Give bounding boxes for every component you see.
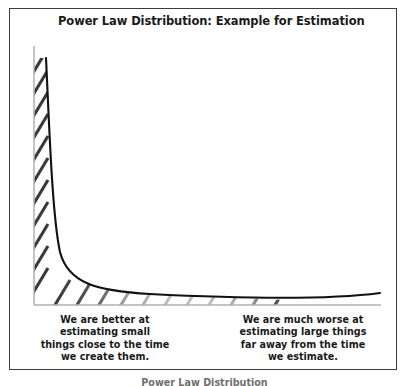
figure-canvas: Power Law Distribution: Example for Esti… — [0, 0, 409, 386]
caption-line: we create them. — [22, 351, 188, 363]
caption-line: We are much worse at — [216, 314, 390, 326]
caption-line: estimating large things — [216, 326, 390, 338]
caption-line: things close to the time — [22, 339, 188, 351]
power-law-curve — [46, 58, 380, 298]
caption-line: estimating small — [22, 326, 188, 338]
caption-line: we estimate. — [216, 351, 390, 363]
caption-line: We are better at — [22, 314, 188, 326]
caption-line: far away from the time — [216, 339, 390, 351]
hatched-area — [18, 40, 390, 330]
small-things-caption: We are better at estimating small things… — [22, 314, 188, 363]
figure-bottom-caption: Power Law Distribution — [0, 377, 409, 386]
large-things-caption: We are much worse at estimating large th… — [216, 314, 390, 363]
